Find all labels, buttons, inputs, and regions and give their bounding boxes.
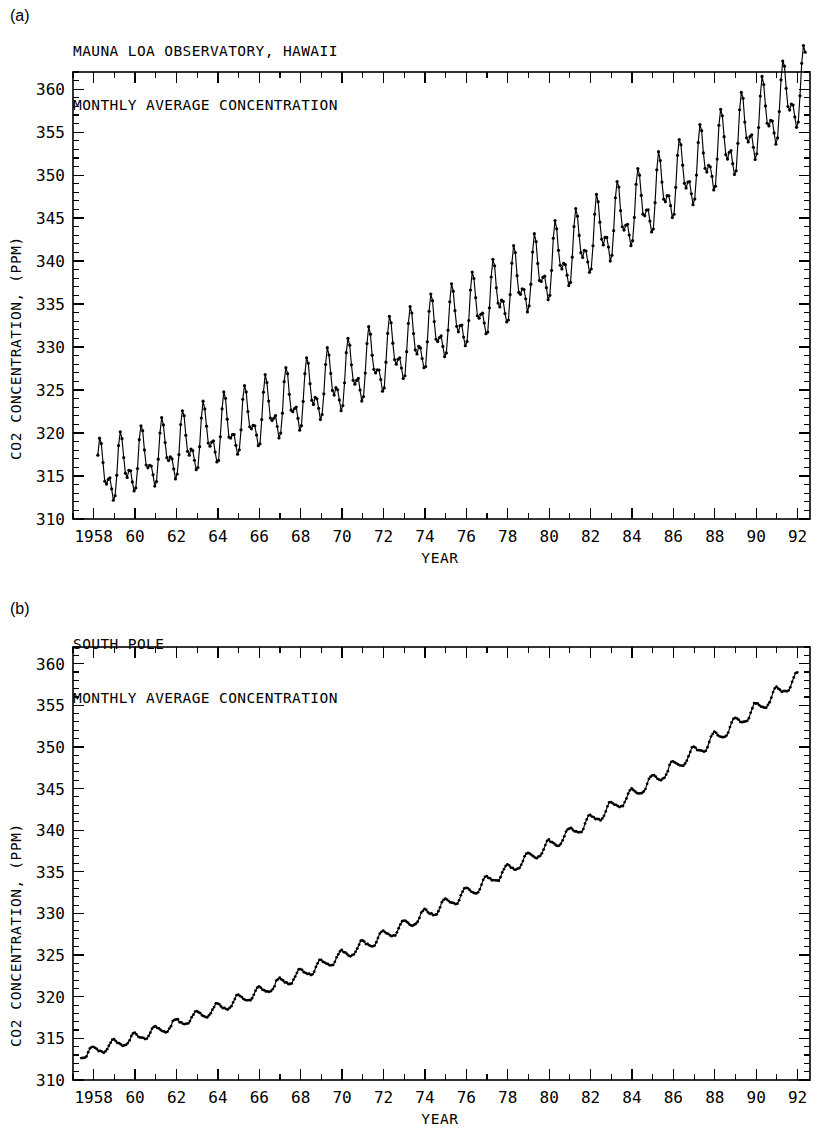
co2-data-point [729,726,732,729]
co2-data-point [315,397,318,400]
x-axis-tick-label: 80 [540,527,559,546]
co2-data-point [233,433,236,436]
co2-data-point [493,264,496,267]
co2-data-point [160,416,163,419]
co2-data-point [643,214,646,217]
co2-data-point [664,200,667,203]
co2-data-point [208,445,211,448]
co2-data-point [277,436,280,439]
co2-data-point [705,170,708,173]
co2-data-point [139,424,142,427]
co2-data-point [265,381,268,384]
co2-data-point [374,371,377,374]
co2-data-point [251,997,254,1000]
co2-data-point [300,424,303,427]
co2-data-point [170,457,173,460]
co2-data-point [514,251,517,254]
x-axis-tick-label: 64 [208,527,227,546]
co2-data-point [229,436,232,439]
co2-data-point [597,200,600,203]
co2-data-point [474,296,477,299]
y-axis-tick-label: 350 [36,738,65,757]
co2-data-point [410,311,413,314]
co2-data-point [772,691,775,694]
co2-data-point [418,916,421,919]
co2-data-point [363,940,366,943]
co2-data-point [622,229,625,232]
co2-data-point [604,810,607,813]
co2-data-point [199,1012,202,1015]
plot-frame [73,72,810,519]
co2-data-point [130,1035,133,1038]
co2-data-point [800,62,803,65]
co2-data-point [555,227,558,230]
co2-data-point [399,923,402,926]
co2-data-point [419,346,422,349]
co2-data-point [481,312,484,315]
co2-data-point [531,250,534,253]
co2-data-point [431,299,434,302]
y-axis-tick-label: 345 [36,780,65,799]
co2-data-point [600,237,603,240]
co2-data-point [567,284,570,287]
co2-data-point [638,174,641,177]
co2-data-point [725,734,728,737]
co2-data-point [187,1022,190,1025]
co2-data-point [586,260,589,263]
co2-data-point [85,1055,88,1058]
co2-data-point [343,381,346,384]
co2-data-point [260,418,263,421]
co2-data-point [358,389,361,392]
co2-data-point [436,340,439,343]
x-axis-tick-label: 68 [291,527,310,546]
co2-data-point [377,369,380,372]
co2-data-point [529,283,532,286]
co2-data-point [439,906,442,909]
co2-data-point [267,399,270,402]
co2-data-point [745,136,748,139]
co2-data-point [379,378,382,381]
co2-data-point [254,989,257,992]
co2-data-point [650,230,653,233]
co2-data-point [276,425,279,428]
co2-data-point [369,333,372,336]
co2-data-point [749,711,752,714]
co2-data-point [609,259,612,262]
co2-data-point [727,731,730,734]
x-axis-tick-label: 80 [540,1088,559,1107]
co2-data-point [236,453,239,456]
co2-data-point [607,246,610,249]
co2-data-point [388,315,391,318]
co2-data-point [440,334,443,337]
co2-data-point [350,363,353,366]
co2-data-point [164,441,167,444]
co2-data-point [711,733,714,736]
co2-data-point [412,332,415,335]
co2-data-point [770,696,773,699]
co2-data-point [203,407,206,410]
co2-data-point [174,477,177,480]
co2-data-point [710,175,713,178]
co2-data-point [291,410,294,413]
x-axis-tick-label: 1958 [74,1088,113,1107]
co2-data-point [158,431,161,434]
co2-data-point [519,293,522,296]
co2-data-point [503,868,506,871]
co2-data-point [694,746,697,749]
co2-data-point [200,416,203,419]
co2-data-point [754,158,757,161]
co2-data-point [312,403,315,406]
co2-data-point [606,805,609,808]
co2-data-point [623,801,626,804]
co2-data-point [352,379,355,382]
x-axis-tick-label: 60 [125,527,144,546]
co2-data-point [198,445,201,448]
co2-data-point [765,706,768,709]
co2-data-point [108,476,111,479]
co2-data-point [614,196,617,199]
co2-data-point [708,741,711,744]
co2-data-point [172,467,175,470]
co2-data-point [582,828,585,831]
co2-data-point [177,453,180,456]
co2-data-point [715,732,718,735]
